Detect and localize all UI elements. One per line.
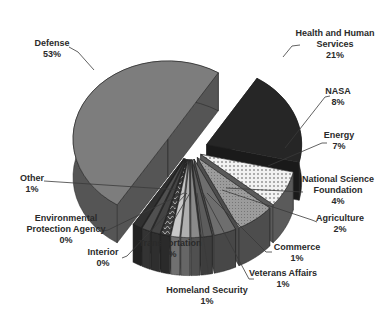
label-text: 0% (26, 235, 105, 246)
label-text: 7% (324, 141, 355, 152)
label-text: 1% (274, 253, 321, 264)
leader-line (69, 47, 94, 70)
label-text: Agriculture (316, 213, 364, 224)
label-text: National Science (302, 174, 374, 185)
label-other: Other1% (20, 173, 44, 195)
label-text: Interior (87, 247, 118, 258)
label-text: Other (20, 173, 44, 184)
label-agriculture: Agriculture2% (316, 213, 364, 235)
label-health-and-human-services: Health and HumanServices21% (295, 28, 374, 61)
label-text: 0% (87, 258, 118, 269)
label-commerce: Commerce1% (274, 242, 321, 264)
label-transportation: Transportation1% (138, 238, 201, 260)
label-text: Health and Human (295, 28, 374, 39)
label-environmental-protection-agency: EnvironmentalProtection Agency0% (26, 213, 105, 246)
label-interior: Interior0% (87, 247, 118, 269)
label-text: Foundation (302, 185, 374, 196)
label-text: Protection Agency (26, 224, 105, 235)
label-text: Transportation (138, 238, 201, 249)
label-text: 4% (302, 196, 374, 207)
label-text: Environmental (26, 213, 105, 224)
label-text: 1% (20, 184, 44, 195)
label-text: NASA (325, 86, 351, 97)
label-text: 1% (138, 249, 201, 260)
label-homeland-security: Homeland Security1% (166, 285, 248, 307)
label-text: Veterans Affairs (249, 268, 317, 279)
label-defense: Defense53% (34, 38, 69, 60)
label-national-science-foundation: National ScienceFoundation4% (302, 174, 374, 207)
label-text: Homeland Security (166, 285, 248, 296)
label-text: 21% (295, 50, 374, 61)
label-text: 1% (249, 279, 317, 290)
label-text: Commerce (274, 242, 321, 253)
label-text: 2% (316, 224, 364, 235)
label-text: Defense (34, 38, 69, 49)
label-nasa: NASA8% (325, 86, 351, 108)
label-text: 53% (34, 49, 69, 60)
label-text: 8% (325, 97, 351, 108)
label-text: Energy (324, 130, 355, 141)
label-text: Services (295, 39, 374, 50)
label-text: 1% (166, 296, 248, 307)
label-veterans-affairs: Veterans Affairs1% (249, 268, 317, 290)
label-energy: Energy7% (324, 130, 355, 152)
